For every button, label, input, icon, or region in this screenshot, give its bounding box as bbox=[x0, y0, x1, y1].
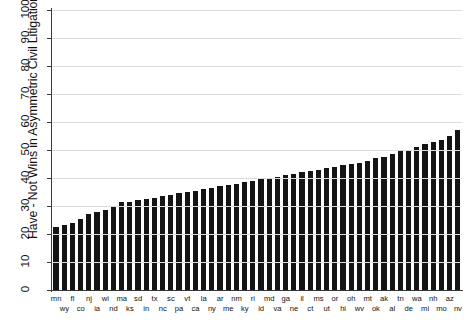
x-tick-label: ms bbox=[310, 294, 328, 303]
x-tick-label: id bbox=[252, 304, 270, 313]
bar bbox=[414, 147, 419, 290]
bar bbox=[234, 184, 239, 290]
y-tick-label-wrap: 90 bbox=[4, 31, 38, 45]
y-tick-label-wrap: 60 bbox=[4, 115, 38, 129]
x-tick-label: ct bbox=[301, 304, 319, 313]
x-tick-label: ga bbox=[277, 294, 295, 303]
bar bbox=[209, 188, 214, 290]
bar bbox=[53, 227, 58, 290]
bar bbox=[316, 170, 321, 290]
x-tick-label: md bbox=[260, 294, 278, 303]
x-tick-label: pa bbox=[170, 304, 188, 313]
x-tick-label: ok bbox=[367, 304, 385, 313]
x-tick-label: ny bbox=[203, 304, 221, 313]
plot-area: 0102030405060708090100 bbox=[52, 10, 462, 290]
x-tick-label: vt bbox=[178, 294, 196, 303]
x-tick-label: in bbox=[137, 304, 155, 313]
bar bbox=[78, 219, 83, 290]
x-tick-label: mt bbox=[359, 294, 377, 303]
y-tick-label: 0 bbox=[19, 276, 31, 302]
bar bbox=[357, 163, 362, 290]
y-tick-label: 10 bbox=[19, 248, 31, 274]
x-tick-label: sc bbox=[162, 294, 180, 303]
x-tick-label: nm bbox=[228, 294, 246, 303]
x-tick-label: fl bbox=[64, 294, 82, 303]
bar bbox=[299, 172, 304, 290]
y-tick-label: 50 bbox=[19, 136, 31, 162]
gridline bbox=[52, 206, 462, 207]
bar bbox=[283, 175, 288, 290]
gridline bbox=[52, 262, 462, 263]
x-tick-label: nj bbox=[80, 294, 98, 303]
bar-chart: Have - Not Wins in Asymmetric Civil Liti… bbox=[0, 0, 469, 327]
bar bbox=[291, 174, 296, 290]
bar bbox=[144, 199, 149, 290]
bar bbox=[160, 196, 165, 290]
x-tick-label: az bbox=[441, 294, 459, 303]
x-tick-label: ky bbox=[236, 304, 254, 313]
x-tick-label: de bbox=[400, 304, 418, 313]
bar bbox=[406, 150, 411, 290]
y-tick-label: 70 bbox=[19, 80, 31, 106]
bar bbox=[390, 154, 395, 290]
y-tick-label-wrap: 30 bbox=[4, 199, 38, 213]
x-tick-label: oh bbox=[342, 294, 360, 303]
y-tick-label: 90 bbox=[19, 24, 31, 50]
x-tick-label: ks bbox=[121, 304, 139, 313]
y-tick-mark bbox=[47, 290, 52, 291]
x-tick-label: nh bbox=[424, 294, 442, 303]
bar bbox=[340, 165, 345, 290]
y-tick-label-wrap: 10 bbox=[4, 255, 38, 269]
x-tick-label: la bbox=[195, 294, 213, 303]
x-tick-label: ma bbox=[113, 294, 131, 303]
bar bbox=[94, 212, 99, 290]
bar bbox=[455, 130, 460, 290]
x-tick-label: ut bbox=[318, 304, 336, 313]
x-tick-label: ak bbox=[375, 294, 393, 303]
x-tick-label: va bbox=[269, 304, 287, 313]
gridline bbox=[52, 234, 462, 235]
x-tick-label: tx bbox=[146, 294, 164, 303]
x-tick-label: wa bbox=[408, 294, 426, 303]
x-tick-label: or bbox=[326, 294, 344, 303]
bar bbox=[431, 142, 436, 290]
bar bbox=[332, 167, 337, 290]
x-tick-label: co bbox=[72, 304, 90, 313]
bar bbox=[324, 168, 329, 290]
x-tick-label: nc bbox=[154, 304, 172, 313]
bar bbox=[381, 157, 386, 290]
bar bbox=[111, 207, 116, 290]
x-tick-label: ia bbox=[88, 304, 106, 313]
bar bbox=[217, 186, 222, 290]
x-tick-label: me bbox=[219, 304, 237, 313]
y-tick-label-wrap: 50 bbox=[4, 143, 38, 157]
bar bbox=[135, 200, 140, 290]
bar bbox=[398, 151, 403, 290]
x-tick-label: mo bbox=[433, 304, 451, 313]
bar bbox=[349, 164, 354, 290]
bar bbox=[119, 202, 124, 290]
x-tick-label: ar bbox=[211, 294, 229, 303]
gridline bbox=[52, 10, 462, 11]
bar bbox=[422, 144, 427, 290]
x-tick-label: il bbox=[293, 294, 311, 303]
gridline bbox=[52, 38, 462, 39]
bar bbox=[447, 136, 452, 290]
x-tick-label: tn bbox=[392, 294, 410, 303]
x-tick-label: al bbox=[383, 304, 401, 313]
bar bbox=[152, 198, 157, 290]
y-tick-label-wrap: 20 bbox=[4, 227, 38, 241]
bar bbox=[176, 193, 181, 290]
bar bbox=[86, 214, 91, 290]
x-tick-label: nv bbox=[449, 304, 467, 313]
x-tick-label: ne bbox=[285, 304, 303, 313]
y-tick-label-wrap: 80 bbox=[4, 59, 38, 73]
gridline bbox=[52, 94, 462, 95]
bar bbox=[226, 185, 231, 290]
y-tick-label-wrap: 0 bbox=[4, 283, 38, 297]
bar bbox=[365, 161, 370, 290]
x-tick-label: wv bbox=[351, 304, 369, 313]
y-tick-label-wrap: 70 bbox=[4, 87, 38, 101]
y-tick-label: 100 bbox=[19, 0, 31, 22]
x-tick-label: hi bbox=[334, 304, 352, 313]
